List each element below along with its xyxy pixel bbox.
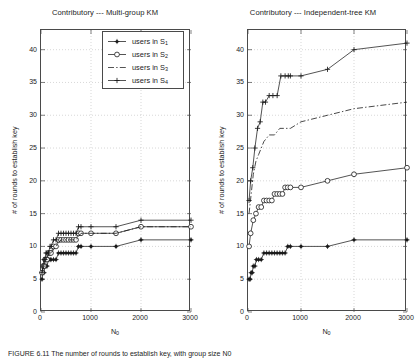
data-point-filled-star	[53, 257, 58, 262]
data-point-open-circle	[251, 218, 256, 223]
panel-multi-group-km: Contributory --- Multi-group KM 05101520…	[0, 0, 210, 345]
data-point-filled-star	[138, 237, 143, 242]
data-point-plus	[188, 218, 193, 223]
y-axis-label-left: # of rounds to establish key	[10, 127, 19, 215]
legend-label: users in S2	[132, 50, 168, 59]
data-point-plus	[138, 218, 143, 223]
legend-label: users in S1	[132, 37, 168, 46]
data-point-open-circle	[288, 185, 293, 190]
y-tick-label: 40	[15, 45, 37, 52]
data-point-plus	[258, 119, 263, 124]
data-point-open-circle	[254, 211, 259, 216]
panel-independent-tree-km: Contributory --- Independent-tree KM 051…	[207, 0, 419, 345]
x-axis-label-right: N0	[322, 327, 330, 336]
data-point-plus	[263, 100, 268, 105]
data-point-plus	[252, 145, 257, 150]
data-point-filled-star	[248, 277, 253, 282]
legend-item-s4: users in S4	[106, 74, 179, 87]
data-point-plus	[78, 224, 83, 229]
data-point-filled-star	[88, 244, 93, 249]
series-line	[249, 102, 407, 213]
legend-marker-open-circle	[106, 49, 128, 60]
x-tick-label: 2000	[333, 314, 373, 321]
data-point-filled-star	[188, 237, 193, 242]
x-tick-label: 1000	[280, 314, 320, 321]
data-point-filled-star	[114, 39, 119, 44]
figure-container: Contributory --- Multi-group KM 05101520…	[0, 0, 419, 359]
series-line	[249, 43, 407, 200]
series-users-in-s2	[40, 224, 194, 275]
data-point-filled-star	[250, 270, 255, 275]
data-right	[248, 30, 405, 310]
data-point-open-circle	[247, 244, 252, 249]
y-tick-label: 10	[222, 242, 244, 249]
x-tick-label: 0	[227, 314, 267, 321]
legend-label: users in S3	[132, 63, 168, 72]
y-tick-label: 10	[15, 242, 37, 249]
panel-title-left: Contributory --- Multi-group KM	[0, 8, 210, 17]
series-users-in-s3	[249, 102, 407, 213]
x-tick-label: 0	[20, 314, 60, 321]
legend-marker-filled-star	[106, 36, 128, 47]
plot-area-right	[247, 29, 406, 311]
legend-item-s2: users in S2	[106, 48, 179, 61]
data-point-plus	[113, 224, 118, 229]
legend-marker-plus	[106, 75, 128, 86]
x-tick-label: 3000	[170, 314, 210, 321]
y-tick-label: 35	[222, 78, 244, 85]
legend: users in S1users in S2users in S3users i…	[102, 31, 184, 89]
data-point-filled-star	[404, 237, 409, 242]
panel-title-right: Contributory --- Independent-tree KM	[207, 8, 419, 17]
y-tick-label: 40	[222, 45, 244, 52]
series-users-in-s1	[246, 237, 409, 282]
data-point-filled-star	[78, 244, 83, 249]
series-users-in-s1	[39, 237, 193, 282]
data-point-open-circle	[325, 178, 330, 183]
data-point-plus	[248, 178, 253, 183]
figure-caption: FIGURE 6.11 The number of rounds to esta…	[8, 349, 411, 358]
y-tick-label: 30	[15, 111, 37, 118]
legend-item-s3: users in S3	[106, 61, 179, 74]
y-axis-label-right: # of rounds to establish key	[217, 127, 226, 215]
data-point-plus	[275, 93, 280, 98]
data-point-open-circle	[280, 192, 285, 197]
x-axis-label-left: N0	[111, 327, 119, 336]
data-point-open-circle	[269, 198, 274, 203]
data-point-open-circle	[115, 52, 120, 57]
y-tick-label: 5	[15, 275, 37, 282]
data-point-filled-star	[298, 244, 303, 249]
x-tick-label: 3000	[386, 314, 419, 321]
data-point-filled-star	[325, 244, 330, 249]
data-point-plus	[325, 67, 330, 72]
data-point-open-circle	[299, 185, 304, 190]
legend-marker-none	[106, 62, 128, 73]
data-point-open-circle	[248, 231, 253, 236]
legend-item-s1: users in S1	[106, 35, 179, 48]
data-point-plus	[298, 73, 303, 78]
data-point-filled-star	[39, 277, 44, 282]
data-point-plus	[351, 47, 356, 52]
data-point-filled-star	[73, 250, 78, 255]
data-point-open-circle	[352, 172, 357, 177]
data-point-filled-star	[283, 250, 288, 255]
data-point-plus	[114, 78, 119, 83]
data-point-open-circle	[405, 165, 410, 170]
series-users-in-s2	[247, 165, 410, 248]
data-point-plus	[404, 41, 409, 46]
x-tick-label: 1000	[70, 314, 110, 321]
y-tick-label: 35	[15, 78, 37, 85]
y-tick-label: 5	[222, 275, 244, 282]
data-point-open-circle	[259, 205, 264, 210]
data-point-filled-star	[288, 244, 293, 249]
data-point-plus	[255, 126, 260, 131]
data-point-filled-star	[259, 257, 264, 262]
x-tick-label: 2000	[120, 314, 160, 321]
data-point-plus	[88, 224, 93, 229]
y-tick-label: 30	[222, 111, 244, 118]
data-point-filled-star	[351, 237, 356, 242]
legend-label: users in S4	[132, 76, 168, 85]
data-point-filled-star	[113, 244, 118, 249]
